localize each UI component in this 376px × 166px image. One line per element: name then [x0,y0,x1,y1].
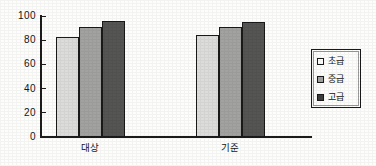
y-tick-label: 80 [2,35,36,45]
bar-chart-figure: 020406080100 대상기준 초급 중급 고급 [0,0,376,166]
bar-기준-초급 [196,35,219,137]
bar-기준-중급 [219,27,242,137]
y-tick-label: 60 [2,59,36,69]
legend-label-1: 중급 [328,74,344,84]
plot-area [40,16,312,137]
y-tick-label: 0 [2,132,36,142]
legend-item-2: 고급 [317,91,344,103]
legend-label-0: 초급 [328,56,344,66]
legend-swatch-icon-0 [317,58,324,65]
legend-item-0: 초급 [317,55,344,67]
group-label-기준: 기준 [190,142,270,153]
chart-legend: 초급 중급 고급 [311,49,361,108]
legend-label-2: 고급 [328,92,344,102]
y-tick-label: 100 [2,11,36,21]
bar-대상-초급 [56,37,79,137]
bar-대상-고급 [102,21,125,137]
legend-swatch-icon-1 [317,76,324,83]
legend-item-1: 중급 [317,73,344,85]
legend-swatch-icon-2 [317,94,324,101]
bar-대상-중급 [79,27,102,137]
y-tick-label: 40 [2,84,36,94]
y-tick-label: 20 [2,108,36,118]
bar-기준-고급 [242,22,265,137]
group-label-대상: 대상 [50,142,130,153]
